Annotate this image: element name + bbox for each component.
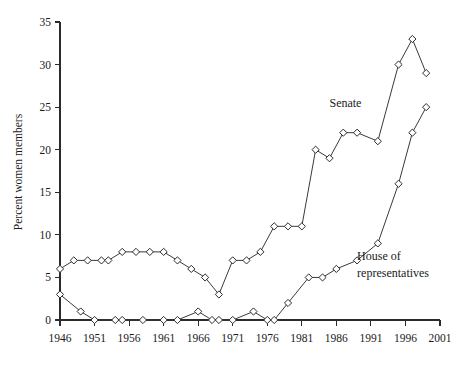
x-tick-label: 1991 — [359, 332, 382, 344]
y-tick-label: 25 — [40, 101, 52, 113]
y-tick-label: 0 — [45, 314, 51, 326]
line-chart: 05101520253035 1946195119561961196619711… — [0, 0, 461, 381]
y-tick-label: 30 — [40, 59, 52, 71]
annotation-senate: Senate — [329, 96, 361, 110]
annotation-house: House of — [357, 249, 401, 263]
annotation-house2: representatives — [357, 266, 429, 280]
y-tick-label: 5 — [45, 271, 51, 283]
x-tick-label: 1981 — [290, 332, 313, 344]
x-tick-label: 1976 — [256, 332, 279, 344]
x-tick-label: 1951 — [83, 332, 106, 344]
x-tick-label: 1946 — [49, 332, 72, 344]
x-tick-label: 1996 — [394, 332, 417, 344]
x-tick-label: 1956 — [118, 332, 141, 344]
y-axis-title: Percent women members — [12, 113, 24, 230]
y-tick-label: 20 — [40, 144, 52, 156]
x-tick-label: 2001 — [429, 332, 452, 344]
y-tick-label: 15 — [40, 186, 52, 198]
y-tick-label: 35 — [40, 16, 52, 28]
x-tick-label: 1966 — [187, 332, 210, 344]
y-tick-label: 10 — [40, 229, 52, 241]
x-tick-label: 1961 — [152, 332, 175, 344]
plot-background — [0, 0, 461, 381]
x-tick-label: 1986 — [325, 332, 348, 344]
chart-page: 05101520253035 1946195119561961196619711… — [0, 0, 461, 381]
x-tick-label: 1971 — [221, 332, 244, 344]
